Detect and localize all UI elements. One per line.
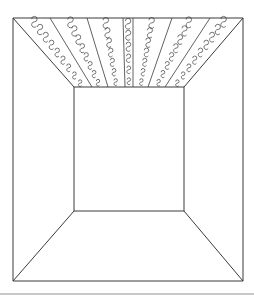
scroll-ornament-icon — [204, 40, 209, 49]
scroll-ornament-icon — [174, 44, 179, 53]
scroll-ornament-icon — [105, 28, 110, 38]
scroll-ornament-icon — [146, 38, 151, 47]
scroll-ornament-icon — [127, 78, 130, 85]
scroll-ornament-icon — [49, 40, 54, 49]
floor-right-corner-edge — [184, 211, 243, 281]
scroll-ornament-icon — [198, 48, 202, 57]
scroll-ornament-icon — [215, 24, 220, 34]
scroll-ornament-icon — [141, 69, 145, 76]
scroll-ornament-icon — [88, 61, 92, 69]
scroll-ornament-icon — [126, 54, 130, 62]
scroll-ornament-icon — [43, 32, 48, 42]
ceiling-left-corner-edge — [13, 18, 74, 87]
scroll-ornament-icon — [143, 58, 147, 66]
scroll-ornament-icon — [127, 66, 131, 74]
scroll-ornament-icon — [72, 26, 77, 36]
scroll-ornament-icon — [126, 42, 131, 51]
scroll-ornament-icon — [157, 79, 160, 86]
scroll-ornament-icon — [84, 53, 88, 62]
scroll-ornament-icon — [114, 79, 117, 86]
scroll-ornament-icon — [187, 64, 191, 72]
room-perspective-drawing — [0, 0, 254, 295]
scroll-ornament-icon — [178, 35, 183, 45]
scroll-ornament-icon — [193, 56, 197, 64]
scroll-ornament-icon — [73, 72, 77, 79]
scroll-ornament-icon — [181, 72, 185, 79]
scroll-ornament-icon — [107, 38, 112, 47]
scroll-ornament-icon — [61, 56, 65, 64]
scroll-ornament-icon — [92, 70, 96, 77]
scroll-ornament-icon — [176, 80, 179, 87]
scroll-ornament-icon — [125, 18, 130, 29]
scroll-ornament-icon — [96, 79, 99, 86]
scroll-ornament-icon — [103, 18, 108, 29]
scroll-ornament-icon — [112, 69, 116, 76]
scroll-ornament-icon — [210, 32, 215, 42]
scroll-ornament-icon — [126, 30, 131, 40]
scroll-ornament-icon — [78, 80, 81, 87]
scroll-ornament-icon — [67, 64, 71, 72]
scroll-ornament-icon — [169, 53, 173, 62]
scroll-ornament-icon — [109, 48, 113, 57]
scroll-ornament-icon — [147, 28, 152, 38]
scroll-ornament-icon — [182, 26, 187, 36]
scroll-ornament-icon — [80, 44, 85, 53]
scroll-ornament-icon — [140, 79, 143, 86]
scroll-ornament-icon — [149, 18, 154, 29]
scroll-ornament-icon — [76, 35, 81, 45]
scroll-ornament-icon — [55, 48, 59, 57]
scroll-ornament-icon — [165, 61, 169, 69]
scroll-ornament-icon — [37, 24, 42, 34]
scroll-ornament-icon — [110, 58, 114, 66]
scroll-ornament-icon — [161, 70, 165, 77]
ceiling-stripe-line — [123, 18, 125, 87]
scroll-ornament-icon — [144, 48, 148, 57]
floor-left-corner-edge — [13, 211, 74, 281]
ceiling-right-corner-edge — [184, 18, 243, 87]
